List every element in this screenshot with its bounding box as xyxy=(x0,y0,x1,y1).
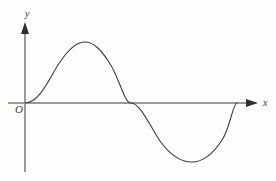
y-axis-arrow-icon xyxy=(21,22,29,34)
sine-curve-path xyxy=(25,42,237,162)
x-axis-label: x xyxy=(263,98,267,108)
plot-canvas xyxy=(0,0,276,181)
origin-label: O xyxy=(15,104,23,115)
sine-curve-figure: y x O xyxy=(0,0,276,181)
x-axis-arrow-icon xyxy=(246,99,258,107)
y-axis-label: y xyxy=(25,9,29,19)
